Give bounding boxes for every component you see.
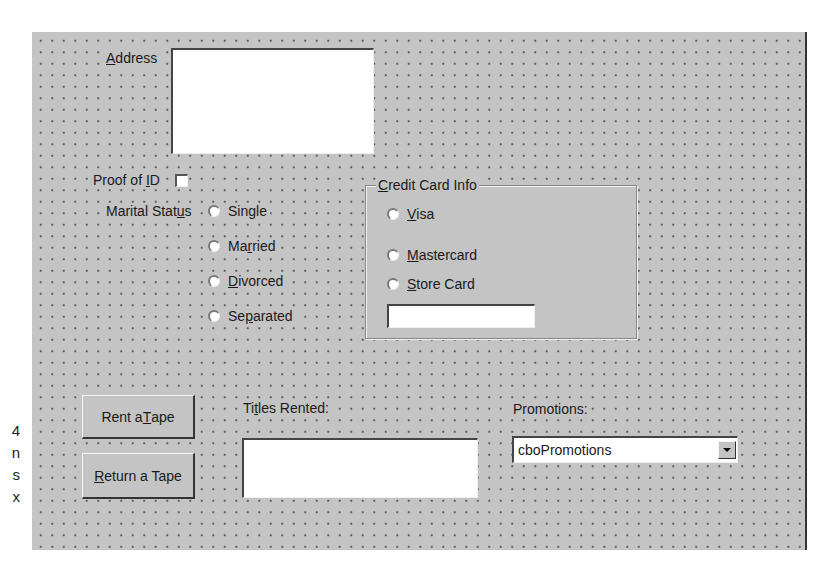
radio-visa[interactable]: Visa xyxy=(387,206,437,222)
address-input[interactable] xyxy=(171,48,374,154)
margin-fragment: n xyxy=(0,444,20,461)
titles-rented-list[interactable] xyxy=(242,438,478,498)
address-label: Address xyxy=(104,50,159,66)
credit-card-groupbox: Credit Card Info Visa Mastercard Store C… xyxy=(365,185,637,339)
promotions-label: Promotions: xyxy=(511,401,590,417)
radio-circle[interactable] xyxy=(208,205,220,217)
radio-circle[interactable] xyxy=(387,208,399,220)
radio-circle[interactable] xyxy=(387,249,399,261)
radio-single[interactable]: Single xyxy=(208,203,270,219)
promotions-selected-value: cboPromotions xyxy=(514,442,718,458)
credit-card-group-title: Credit Card Info xyxy=(376,177,479,193)
radio-mastercard[interactable]: Mastercard xyxy=(387,247,480,263)
margin-fragment: s xyxy=(0,466,20,483)
margin-fragment: 4 xyxy=(0,422,20,439)
titles-rented-label: Titles Rented: xyxy=(241,400,331,416)
radio-circle[interactable] xyxy=(208,310,220,322)
rent-a-tape-button[interactable]: Rent a Tape xyxy=(82,395,195,439)
marital-status-label: Marital Status xyxy=(104,203,194,219)
margin-fragment: x xyxy=(0,488,20,505)
radio-store-card[interactable]: Store Card xyxy=(387,276,478,292)
radio-circle[interactable] xyxy=(208,275,220,287)
radio-married[interactable]: Married xyxy=(208,238,278,254)
dropdown-button[interactable] xyxy=(718,441,736,459)
form-design-surface: Address Proof of ID Marital Status Singl… xyxy=(32,32,807,550)
chevron-down-icon xyxy=(723,448,731,452)
promotions-combobox[interactable]: cboPromotions xyxy=(512,436,738,463)
radio-divorced[interactable]: Divorced xyxy=(208,273,286,289)
card-number-input[interactable] xyxy=(387,304,535,328)
radio-circle[interactable] xyxy=(387,278,399,290)
radio-separated[interactable]: Separated xyxy=(208,308,296,324)
radio-circle[interactable] xyxy=(208,240,220,252)
proof-of-id-checkbox[interactable] xyxy=(175,174,188,187)
return-a-tape-button[interactable]: Return a Tape xyxy=(82,453,195,499)
proof-of-id-label: Proof of ID xyxy=(91,172,162,188)
